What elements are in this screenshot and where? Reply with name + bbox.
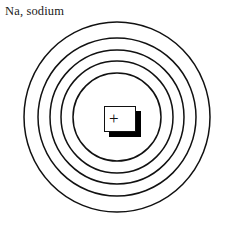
nucleus-box: +	[104, 106, 136, 132]
nucleus: +	[104, 106, 143, 139]
atom-shell-diagram: Na, sodium +	[0, 0, 238, 225]
nucleus-charge-symbol: +	[109, 109, 119, 129]
